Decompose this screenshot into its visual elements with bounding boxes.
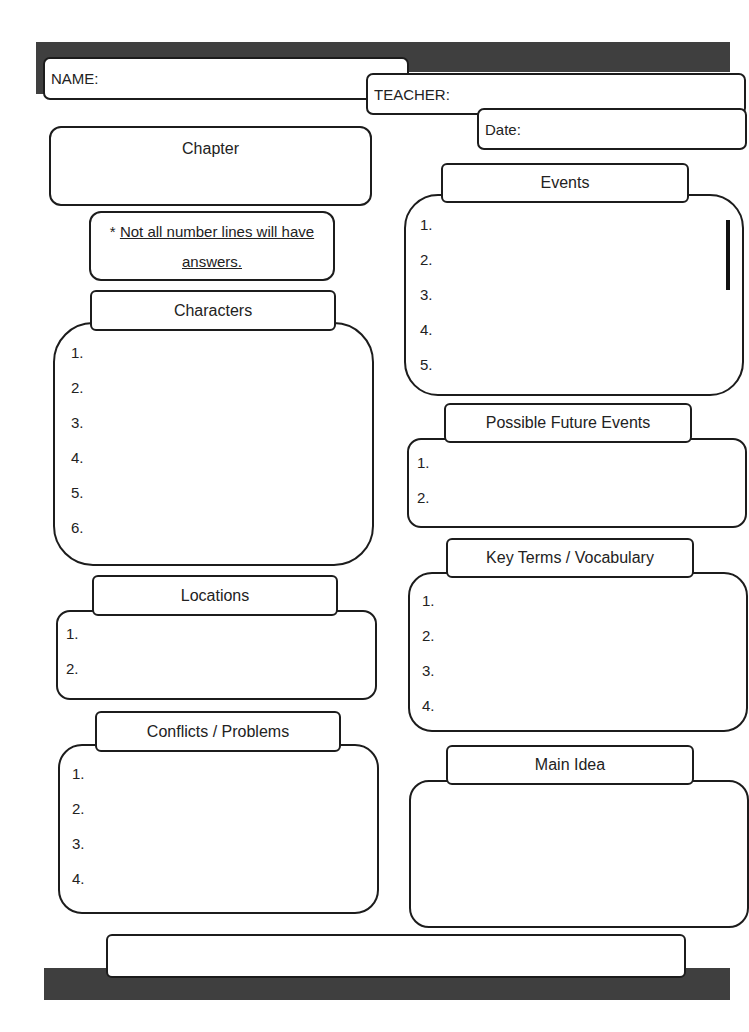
conflicts-title-tab: Conflicts / Problems xyxy=(95,711,341,752)
vocabulary-title-tab: Key Terms / Vocabulary xyxy=(446,538,694,578)
list-item: 4. xyxy=(71,449,84,466)
note-box: * Not all number lines will have answers… xyxy=(89,211,335,281)
list-item: 2. xyxy=(71,379,84,396)
future-events-title-tab: Possible Future Events xyxy=(444,403,692,443)
list-item: 5. xyxy=(420,356,433,373)
list-item: 4. xyxy=(420,321,433,338)
characters-title-tab: Characters xyxy=(90,290,336,331)
locations-title-tab: Locations xyxy=(92,575,338,616)
bottom-footer-box[interactable] xyxy=(106,934,686,978)
name-field[interactable]: NAME: xyxy=(43,57,409,100)
locations-box[interactable]: 1. 2. xyxy=(56,610,377,700)
teacher-label: TEACHER: xyxy=(374,86,450,103)
list-item: 1. xyxy=(71,344,84,361)
future-events-box[interactable]: 1. 2. xyxy=(407,438,747,528)
list-item: 1. xyxy=(72,765,85,782)
note-text: * Not all number lines will have answers… xyxy=(91,217,333,277)
name-label: NAME: xyxy=(51,70,99,87)
list-item: 3. xyxy=(71,414,84,431)
list-item: 4. xyxy=(422,697,435,714)
list-item: 2. xyxy=(72,800,85,817)
note-line-2: answers. xyxy=(182,253,242,270)
list-item: 3. xyxy=(420,286,433,303)
chapter-label: Chapter xyxy=(51,140,370,158)
list-item: 1. xyxy=(66,625,79,642)
list-item: 3. xyxy=(422,662,435,679)
date-label: Date: xyxy=(485,121,521,138)
list-item: 3. xyxy=(72,835,85,852)
list-item: 1. xyxy=(422,592,435,609)
right-edge-shadow xyxy=(726,220,730,290)
events-title-tab: Events xyxy=(441,163,689,203)
list-item: 1. xyxy=(417,454,430,471)
characters-box[interactable]: 1. 2. 3. 4. 5. 6. xyxy=(53,322,374,566)
list-item: 2. xyxy=(66,660,79,677)
list-item: 4. xyxy=(72,870,85,887)
list-item: 6. xyxy=(71,519,84,536)
date-field[interactable]: Date: xyxy=(477,108,747,150)
main-idea-box[interactable] xyxy=(409,780,749,928)
list-item: 2. xyxy=(422,627,435,644)
vocabulary-box[interactable]: 1. 2. 3. 4. xyxy=(408,572,748,732)
list-item: 2. xyxy=(420,251,433,268)
note-line-1: Not all number lines will have xyxy=(120,223,314,240)
events-box[interactable]: 1. 2. 3. 4. 5. xyxy=(404,194,744,396)
main-idea-title-tab: Main Idea xyxy=(446,745,694,785)
list-item: 5. xyxy=(71,484,84,501)
conflicts-box[interactable]: 1. 2. 3. 4. xyxy=(58,744,379,914)
list-item: 2. xyxy=(417,489,430,506)
chapter-box[interactable]: Chapter xyxy=(49,126,372,206)
list-item: 1. xyxy=(420,216,433,233)
